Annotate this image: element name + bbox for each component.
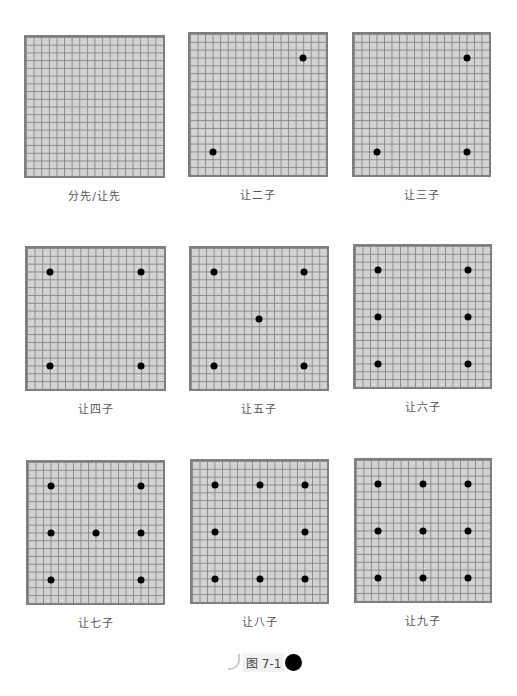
- figure-caption: 图 7-1: [228, 652, 302, 672]
- black-stone: [301, 268, 308, 275]
- black-stone: [301, 481, 308, 488]
- go-board: [354, 458, 492, 603]
- black-stone: [46, 362, 53, 369]
- black-stone: [47, 482, 54, 489]
- black-stone: [464, 480, 471, 487]
- black-stone: [464, 527, 471, 534]
- black-stone: [137, 576, 144, 583]
- figure-curve-decoration: [228, 654, 240, 670]
- black-stone: [420, 480, 427, 487]
- black-stone: [138, 268, 145, 275]
- black-stone: [374, 313, 381, 320]
- black-stone: [92, 529, 99, 536]
- go-board-panel: 让七子: [26, 460, 165, 635]
- go-board: [353, 244, 492, 389]
- black-stone: [137, 482, 144, 489]
- black-stone: [374, 360, 381, 367]
- black-stone: [374, 266, 381, 273]
- go-board-panel: 分先/让先: [24, 35, 165, 208]
- go-board: [26, 460, 165, 605]
- board-caption: 让五子: [189, 400, 329, 416]
- black-stone: [375, 527, 382, 534]
- go-board: [188, 32, 328, 177]
- black-stone: [256, 481, 263, 488]
- go-board: [189, 246, 329, 391]
- black-stone: [256, 575, 263, 582]
- board-caption: 让三子: [352, 186, 491, 202]
- board-caption: 分先/让先: [24, 187, 165, 203]
- black-stone: [375, 574, 382, 581]
- black-stone: [47, 576, 54, 583]
- board-caption: 让六子: [353, 398, 492, 414]
- black-stone: [464, 313, 471, 320]
- black-stone: [420, 527, 427, 534]
- black-stone: [464, 266, 471, 273]
- board-caption: 让八子: [190, 613, 329, 629]
- go-board-panel: 让六子: [353, 244, 492, 419]
- black-stone: [464, 574, 471, 581]
- go-board: [352, 32, 491, 177]
- black-stone: [210, 268, 217, 275]
- go-board-panel: 让五子: [189, 246, 329, 421]
- black-stone: [463, 148, 470, 155]
- figure-dot-icon: [285, 654, 302, 671]
- black-stone: [464, 360, 471, 367]
- black-stone: [211, 481, 218, 488]
- board-caption: 让四子: [25, 400, 166, 416]
- go-board-panel: 让四子: [25, 246, 166, 421]
- black-stone: [300, 54, 307, 61]
- black-stone: [256, 315, 263, 322]
- black-stone: [210, 362, 217, 369]
- go-board-panel: 让二子: [188, 32, 328, 207]
- go-board: [25, 246, 166, 391]
- black-stone: [211, 575, 218, 582]
- figure-label: 图 7-1: [243, 653, 284, 672]
- go-board-panel: 让九子: [354, 458, 492, 633]
- go-board-panel: 让八子: [190, 459, 329, 634]
- board-caption: 让九子: [354, 612, 492, 628]
- black-stone: [301, 528, 308, 535]
- board-caption: 让二子: [188, 186, 328, 202]
- black-stone: [211, 528, 218, 535]
- black-stone: [375, 480, 382, 487]
- board-caption: 让七子: [26, 614, 165, 630]
- black-stone: [137, 529, 144, 536]
- go-board: [190, 459, 329, 604]
- black-stone: [301, 362, 308, 369]
- black-stone: [138, 362, 145, 369]
- black-stone: [420, 574, 427, 581]
- black-stone: [301, 575, 308, 582]
- go-board: [24, 35, 165, 178]
- black-stone: [47, 529, 54, 536]
- black-stone: [46, 268, 53, 275]
- black-stone: [209, 148, 216, 155]
- black-stone: [463, 54, 470, 61]
- go-board-panel: 让三子: [352, 32, 491, 207]
- black-stone: [373, 148, 380, 155]
